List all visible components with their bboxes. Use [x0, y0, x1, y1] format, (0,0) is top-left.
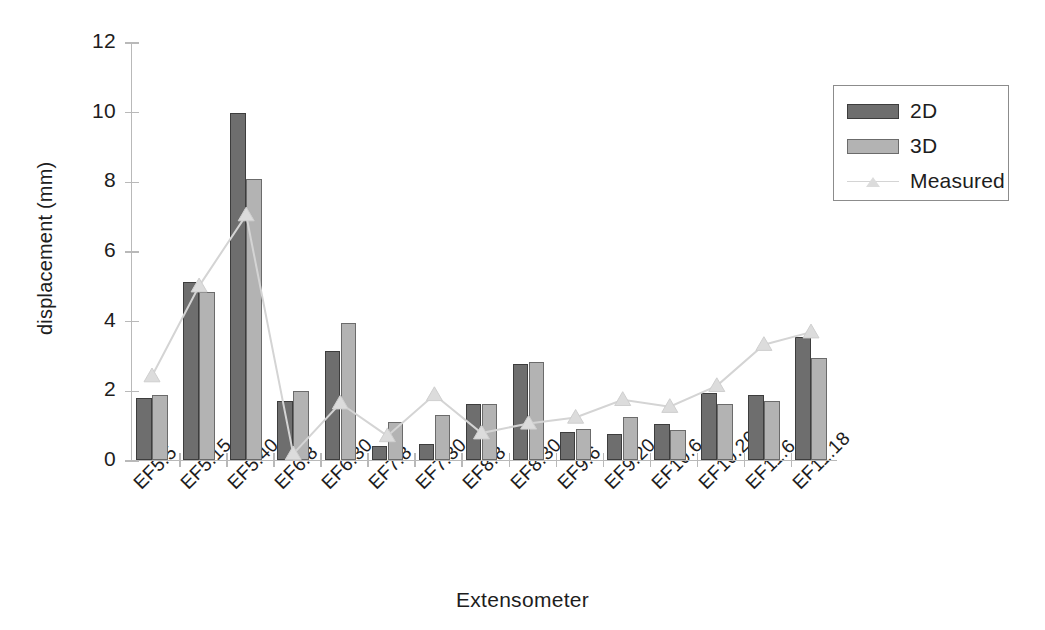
- x-axis-tick: [791, 453, 793, 467]
- x-axis-tick: [226, 453, 228, 467]
- x-axis-tick: [603, 453, 605, 467]
- bar-2d-EF5.15: [183, 282, 199, 460]
- y-axis-tick: [125, 42, 139, 44]
- y-axis-tick: [125, 460, 139, 462]
- legend-swatch-2d: [847, 104, 899, 119]
- x-axis-title: Extensometer: [0, 588, 1045, 612]
- y-axis-title: displacement (mm): [34, 162, 57, 335]
- bar-3d-EF8.30: [529, 362, 545, 460]
- bar-2d-EF8.30: [513, 364, 529, 460]
- measured-marker-EF10.20: [709, 378, 725, 392]
- bar-2d-EF6.8: [277, 401, 293, 460]
- bar-2d-EF8.8: [466, 404, 482, 460]
- x-axis-tick: [273, 453, 275, 467]
- x-axis-tick: [650, 453, 652, 467]
- measured-marker-EF11.18: [803, 324, 819, 338]
- bar-3d-EF11.6: [764, 401, 780, 460]
- legend-item-measured: Measured: [847, 170, 1005, 192]
- y-axis-tick: [125, 251, 139, 253]
- legend-label-measured: Measured: [910, 169, 1005, 193]
- bar-3d-EF9.20: [623, 417, 639, 460]
- triangle-marker-icon: [866, 177, 880, 187]
- y-axis-tick-label: 2: [80, 377, 116, 401]
- measured-marker-EF11.6: [756, 337, 772, 351]
- bar-3d-EF5.5: [152, 395, 168, 460]
- x-axis-tick: [179, 453, 181, 467]
- x-axis-tick: [367, 453, 369, 467]
- legend-item-2d: 2D: [847, 100, 937, 122]
- y-axis-tick-label: 6: [80, 238, 116, 262]
- bar-2d-EF7.30: [419, 444, 435, 460]
- y-axis-tick: [125, 391, 139, 393]
- y-axis-tick-label: 12: [80, 29, 116, 53]
- legend-label-3d: 3D: [910, 134, 937, 158]
- bar-3d-EF10.6: [670, 430, 686, 460]
- x-axis-tick: [697, 453, 699, 467]
- chart-container: displacement (mm) 024681012 Extensometer…: [0, 0, 1045, 630]
- x-axis-tick: [509, 453, 511, 467]
- measured-marker-EF7.30: [426, 387, 442, 401]
- legend: 2D 3D Measured: [833, 85, 1009, 201]
- bar-3d-EF6.30: [341, 323, 357, 460]
- bar-3d-EF10.20: [717, 404, 733, 460]
- bar-2d-EF10.6: [654, 424, 670, 460]
- bar-3d-EF5.40: [246, 179, 262, 460]
- x-axis-tick: [414, 453, 416, 467]
- x-axis-tick: [556, 453, 558, 467]
- measured-marker-EF9.6: [568, 410, 584, 424]
- bar-2d-EF11.18: [795, 337, 811, 460]
- bar-3d-EF7.30: [435, 415, 451, 460]
- bar-3d-EF11.18: [811, 358, 827, 460]
- plot-area: [131, 43, 837, 461]
- bar-3d-EF6.8: [293, 391, 309, 460]
- y-axis-tick: [125, 112, 139, 114]
- y-axis-tick-label: 10: [80, 99, 116, 123]
- bar-2d-EF5.5: [136, 398, 152, 460]
- bar-2d-EF10.20: [701, 393, 717, 460]
- bar-2d-EF11.6: [748, 395, 764, 460]
- bar-2d-EF5.40: [230, 113, 246, 460]
- legend-line-marker-measured: [847, 174, 899, 189]
- bar-2d-EF9.20: [607, 434, 623, 460]
- y-axis-tick-label: 8: [80, 168, 116, 192]
- y-axis-tick: [125, 321, 139, 323]
- measured-marker-EF9.20: [615, 392, 631, 406]
- x-axis-tick: [744, 453, 746, 467]
- legend-item-3d: 3D: [847, 135, 937, 157]
- y-axis-tick-label: 0: [80, 447, 116, 471]
- measured-marker-EF5.5: [144, 368, 160, 382]
- y-axis-tick-label: 4: [80, 308, 116, 332]
- bar-3d-EF8.8: [482, 404, 498, 460]
- legend-swatch-3d: [847, 139, 899, 154]
- bar-2d-EF7.8: [372, 446, 388, 460]
- bar-3d-EF7.8: [388, 422, 404, 460]
- x-axis-tick: [461, 453, 463, 467]
- bar-3d-EF5.15: [199, 292, 215, 460]
- x-axis-tick: [320, 453, 322, 467]
- bar-2d-EF6.30: [325, 351, 341, 460]
- measured-marker-EF10.6: [662, 399, 678, 413]
- bar-2d-EF9.6: [560, 432, 576, 460]
- bar-3d-EF9.6: [576, 429, 592, 460]
- y-axis-tick: [125, 182, 139, 184]
- legend-label-2d: 2D: [910, 99, 937, 123]
